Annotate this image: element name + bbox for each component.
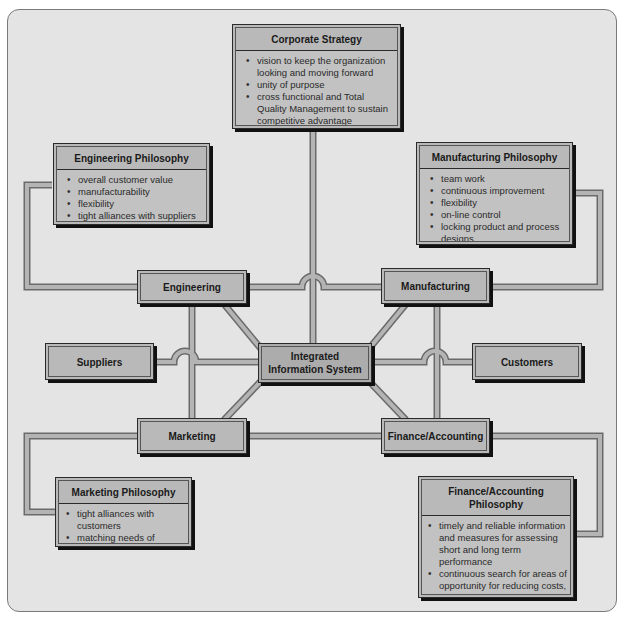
marketing-node: Marketing — [137, 418, 247, 454]
engineering-philosophy-box: Engineering Philosophy overall customer … — [53, 143, 210, 225]
list-item: continuous improvement — [441, 185, 563, 197]
suppliers-label: Suppliers — [46, 355, 153, 368]
list-item: cross functional and Total Quality Manag… — [257, 91, 391, 126]
list-item: team work — [441, 173, 563, 185]
list-item: timely and reliable information and meas… — [439, 520, 567, 568]
engineering-philosophy-list: overall customer value manufacturability… — [57, 170, 206, 222]
customers-label: Customers — [473, 355, 581, 368]
manufacturing-philosophy-box: Manufacturing Philosophy team work conti… — [416, 142, 573, 245]
finance-accounting-philosophy-list: timely and reliable information and meas… — [422, 516, 570, 595]
engineering-philosophy-title: Engineering Philosophy — [57, 147, 206, 170]
manufacturing-node: Manufacturing — [381, 268, 490, 304]
finance-accounting-philosophy-box: Finance/Accounting Philosophy timely and… — [418, 476, 574, 598]
suppliers-node: Suppliers — [45, 343, 154, 380]
list-item: flexibility — [78, 198, 200, 210]
list-item: locking product and process designs — [441, 221, 563, 242]
manufacturing-philosophy-list: team work continuous improvement flexibi… — [420, 169, 569, 242]
integrated-information-system-label: Integrated Information System — [259, 350, 371, 376]
integrated-information-system-node: Integrated Information System — [258, 343, 372, 383]
list-item: matching needs of customers with firm's … — [77, 532, 182, 544]
finance-accounting-philosophy-title: Finance/Accounting Philosophy — [422, 480, 570, 516]
engineering-label: Engineering — [138, 281, 246, 294]
list-item: flexibility — [441, 197, 563, 209]
manufacturing-philosophy-title: Manufacturing Philosophy — [420, 146, 569, 169]
finance-accounting-node: Finance/Accounting — [381, 418, 490, 454]
list-item: continuous search for areas of opportuni… — [439, 568, 567, 595]
list-item: on-line control — [441, 209, 563, 221]
manufacturing-label: Manufacturing — [382, 280, 489, 293]
marketing-label: Marketing — [138, 430, 246, 443]
list-item: vision to keep the organization looking … — [257, 55, 391, 79]
engineering-node: Engineering — [137, 270, 247, 304]
corporate-strategy-list: vision to keep the organization looking … — [236, 51, 397, 126]
marketing-philosophy-title: Marketing Philosophy — [59, 481, 188, 504]
list-item: manufacturability — [78, 186, 200, 198]
finance-accounting-label: Finance/Accounting — [382, 430, 489, 443]
corporate-strategy-title: Corporate Strategy — [236, 28, 397, 51]
marketing-philosophy-box: Marketing Philosophy tight alliances wit… — [55, 477, 192, 547]
customers-node: Customers — [472, 343, 582, 380]
marketing-philosophy-list: tight alliances with customers matching … — [59, 504, 188, 544]
list-item: tight alliances with suppliers — [78, 210, 200, 222]
list-item: unity of purpose — [257, 79, 391, 91]
list-item: tight alliances with customers — [77, 508, 182, 532]
corporate-strategy-box: Corporate Strategy vision to keep the or… — [232, 24, 401, 129]
list-item: overall customer value — [78, 174, 200, 186]
